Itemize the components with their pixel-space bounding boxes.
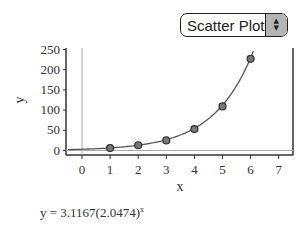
- y-tick-label: 250: [41, 42, 61, 57]
- equation-exponent: x: [140, 205, 144, 214]
- data-point[interactable]: [135, 142, 142, 149]
- y-tick-label: 0: [54, 143, 61, 158]
- y-tick-label: 200: [41, 62, 61, 77]
- x-tick-label: 3: [163, 162, 170, 177]
- x-tick-label: 1: [107, 162, 114, 177]
- x-tick-label: 0: [79, 162, 86, 177]
- data-point[interactable]: [107, 145, 114, 152]
- scatter-chart: 01234567050100150200250 x y: [0, 0, 306, 236]
- x-tick-label: 2: [135, 162, 142, 177]
- y-tick-label: 50: [47, 122, 60, 137]
- equation-text: y = 3.1167(2.0474): [40, 205, 140, 220]
- data-point[interactable]: [191, 126, 198, 133]
- regression-equation: y = 3.1167(2.0474)x: [40, 205, 144, 221]
- x-tick-label: 4: [191, 162, 198, 177]
- data-point[interactable]: [219, 103, 226, 110]
- data-point[interactable]: [163, 137, 170, 144]
- fit-curve: [68, 51, 253, 150]
- plot-frame: [66, 48, 293, 155]
- y-tick-label: 100: [41, 102, 61, 117]
- data-point[interactable]: [247, 55, 254, 62]
- axis-ticks: 01234567050100150200250: [41, 42, 283, 178]
- x-axis-label: x: [177, 179, 184, 194]
- x-tick-label: 7: [275, 162, 282, 177]
- x-tick-label: 5: [219, 162, 226, 177]
- y-axis-label: y: [12, 97, 27, 104]
- data-points: [107, 55, 255, 151]
- x-tick-label: 6: [247, 162, 254, 177]
- y-tick-label: 150: [41, 82, 61, 97]
